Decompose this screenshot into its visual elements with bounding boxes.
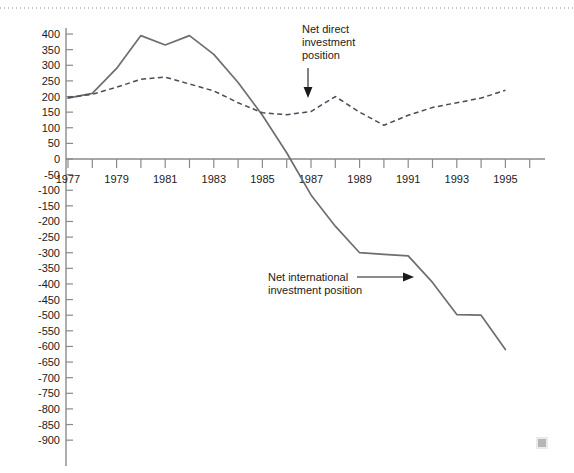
y-tick-label: -500 <box>38 309 60 321</box>
annotation-net-direct-line3: position <box>302 49 340 61</box>
x-tick-label: 1983 <box>202 173 226 185</box>
x-tick-label: 1995 <box>493 173 517 185</box>
x-tick-label: 1991 <box>396 173 420 185</box>
y-tick-label: 350 <box>42 44 60 56</box>
annotation-net-international-investment: Net international investment position <box>268 271 414 296</box>
y-tick-label: 300 <box>42 59 60 71</box>
y-tick-label: -100 <box>38 184 60 196</box>
y-tick-label: 0 <box>54 153 60 165</box>
y-tick-label: -650 <box>38 356 60 368</box>
x-tick-label: 1977 <box>56 173 80 185</box>
y-tick-label: -750 <box>38 387 60 399</box>
y-tick-label: -550 <box>38 325 60 337</box>
series-net-international-investment-position <box>68 36 505 350</box>
y-tick-label: -200 <box>38 215 60 227</box>
top-dotted-rule <box>0 7 574 9</box>
x-tick-label: 1989 <box>347 173 371 185</box>
annotation-net-direct-investment: Net direct investment position <box>302 23 355 98</box>
annotation-net-international-arrow-head <box>403 273 414 282</box>
y-axis-ticks <box>66 34 73 440</box>
y-axis-tick-labels: 400350300250200150100500-50-100-150-200-… <box>38 28 60 446</box>
x-axis-tick-labels: 1977197919811983198519871989199119931995 <box>56 173 518 185</box>
annotation-net-direct-arrow-head <box>304 87 313 98</box>
y-tick-label: 400 <box>42 28 60 40</box>
y-tick-label: 150 <box>42 106 60 118</box>
y-tick-label: -350 <box>38 262 60 274</box>
annotation-net-direct-line1: Net direct <box>302 23 349 35</box>
y-tick-label: -250 <box>38 231 60 243</box>
chart-figure: 400350300250200150100500-50-100-150-200-… <box>0 0 574 473</box>
x-tick-label: 1979 <box>104 173 128 185</box>
y-tick-label: 50 <box>48 137 60 149</box>
y-tick-label: -600 <box>38 340 60 352</box>
x-tick-label: 1985 <box>250 173 274 185</box>
investment-position-line-chart: 400350300250200150100500-50-100-150-200-… <box>0 0 574 473</box>
annotation-net-direct-line2: investment <box>302 36 355 48</box>
annotation-net-international-line2: investment position <box>268 284 362 296</box>
y-tick-label: -900 <box>38 434 60 446</box>
y-tick-label: -800 <box>38 403 60 415</box>
y-tick-label: -850 <box>38 419 60 431</box>
y-tick-label: -450 <box>38 294 60 306</box>
y-tick-label: 250 <box>42 75 60 87</box>
x-tick-label: 1981 <box>153 173 177 185</box>
annotation-net-international-line1: Net international <box>268 271 348 283</box>
y-tick-label: -150 <box>38 200 60 212</box>
y-tick-label: 100 <box>42 122 60 134</box>
y-tick-label: -300 <box>38 247 60 259</box>
gray-square-marker-icon <box>536 437 548 449</box>
y-tick-label: -400 <box>38 278 60 290</box>
x-tick-label: 1993 <box>445 173 469 185</box>
x-axis-ticks <box>68 159 530 168</box>
y-tick-label: -700 <box>38 372 60 384</box>
y-tick-label: 200 <box>42 91 60 103</box>
series-net-direct-investment-position <box>68 77 505 125</box>
